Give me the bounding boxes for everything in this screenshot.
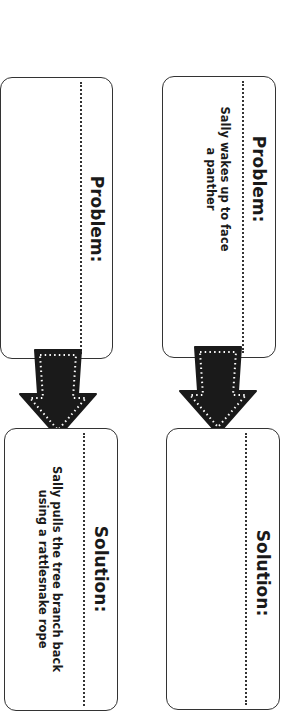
problem-text-line: a panther <box>204 106 218 251</box>
divider-dotted <box>83 433 85 706</box>
solution-box-left: Solution: Sally pulls the tree branch ba… <box>4 428 118 711</box>
arrow-down-icon <box>18 348 98 440</box>
solution-text-line: Sally pulls the tree branch back <box>50 466 64 672</box>
divider-dotted <box>80 82 82 354</box>
arrow-down-icon <box>178 345 258 437</box>
solution-box-right: Solution: <box>166 428 280 710</box>
problem-text: Sally wakes up to face a panther <box>204 106 232 251</box>
problem-heading: Problem: <box>87 176 107 263</box>
problem-box-left: Problem: <box>0 77 113 359</box>
solution-heading: Solution: <box>253 530 273 616</box>
divider-dotted <box>245 433 247 705</box>
problem-box-right: Problem: Sally wakes up to face a panthe… <box>162 76 276 358</box>
problem-text-line: Sally wakes up to face <box>218 106 232 251</box>
problem-heading: Problem: <box>249 136 269 223</box>
solution-text-line: using a rattlesnake rope <box>36 466 50 672</box>
solution-text: Sally pulls the tree branch back using a… <box>36 466 64 672</box>
divider-dotted <box>242 81 244 353</box>
solution-heading: Solution: <box>91 526 111 612</box>
